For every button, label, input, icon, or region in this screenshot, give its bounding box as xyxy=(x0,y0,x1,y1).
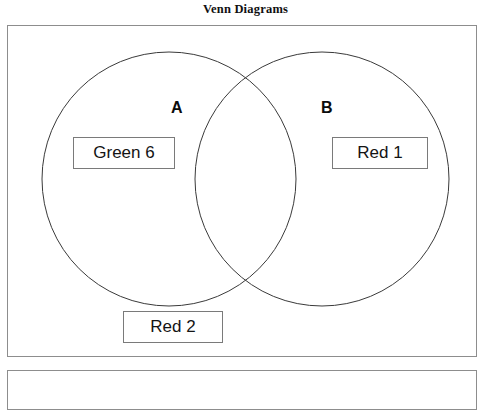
set-label-b: B xyxy=(321,100,333,116)
venn-circle-b[interactable] xyxy=(195,52,449,306)
secondary-empty-canvas xyxy=(7,370,477,410)
item-label-green-6[interactable]: Green 6 xyxy=(73,137,175,169)
set-label-a: A xyxy=(171,100,183,116)
venn-diagram-canvas: A B Green 6 Red 1 Red 2 xyxy=(7,25,477,357)
venn-circle-a[interactable] xyxy=(42,52,296,306)
venn-circles-group xyxy=(8,26,478,358)
item-label-red-1[interactable]: Red 1 xyxy=(332,137,428,169)
item-label-red-2[interactable]: Red 2 xyxy=(123,311,223,343)
page-title: Venn Diagrams xyxy=(0,2,491,17)
